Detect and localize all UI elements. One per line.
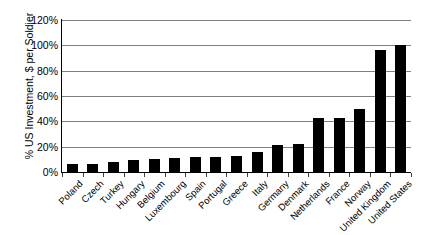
bar xyxy=(252,152,263,172)
bar xyxy=(293,144,304,172)
bar xyxy=(231,156,242,172)
bar xyxy=(128,160,139,172)
x-axis-tick-mark xyxy=(165,173,166,177)
bar xyxy=(67,164,78,172)
x-axis-tick-mark xyxy=(83,173,84,177)
y-axis-tick-label: 40% xyxy=(14,115,58,127)
bar xyxy=(210,157,221,172)
bar xyxy=(334,118,345,172)
x-axis-tick-mark xyxy=(390,173,391,177)
bar xyxy=(190,157,201,172)
bar xyxy=(375,50,386,172)
x-axis-tick-mark xyxy=(124,173,125,177)
gridline xyxy=(62,96,411,97)
y-axis-tick-label: 120% xyxy=(14,14,58,26)
bar xyxy=(108,162,119,172)
bar-chart: % US Investment, $ per Soldier 0%20%40%6… xyxy=(0,0,421,235)
gridline xyxy=(62,71,411,72)
x-axis-tick-mark xyxy=(144,173,145,177)
x-axis-tick-mark xyxy=(329,173,330,177)
y-axis-tick-labels: 0%20%40%60%80%100%120% xyxy=(10,0,58,235)
x-axis-tick-mark xyxy=(103,173,104,177)
gridline xyxy=(62,45,411,46)
y-axis-tick-label: 20% xyxy=(14,141,58,153)
x-axis-tick-mark xyxy=(267,173,268,177)
x-axis-tick-mark xyxy=(370,173,371,177)
bar xyxy=(313,118,324,172)
bar xyxy=(272,145,283,172)
x-axis-tick-mark xyxy=(206,173,207,177)
y-axis-tick-label: 100% xyxy=(14,39,58,51)
y-axis-tick-label: 80% xyxy=(14,65,58,77)
x-axis-tick-mark xyxy=(185,173,186,177)
bar xyxy=(87,164,98,172)
x-axis-tick-mark xyxy=(349,173,350,177)
x-axis-tick-mark xyxy=(308,173,309,177)
gridline xyxy=(62,20,411,21)
bar xyxy=(354,109,365,172)
x-axis-tick-mark xyxy=(247,173,248,177)
y-axis-line xyxy=(61,19,62,173)
bar xyxy=(149,159,160,172)
bar xyxy=(169,158,180,172)
x-axis-tick-mark xyxy=(288,173,289,177)
x-axis-tick-mark xyxy=(226,173,227,177)
y-axis-tick-label: 60% xyxy=(14,90,58,102)
x-axis-tick-mark xyxy=(411,173,412,177)
bar xyxy=(395,45,406,172)
x-axis-tick-mark xyxy=(62,173,63,177)
plot-area xyxy=(62,20,411,172)
x-axis-line xyxy=(61,172,411,173)
y-axis-tick-label: 0% xyxy=(14,166,58,178)
